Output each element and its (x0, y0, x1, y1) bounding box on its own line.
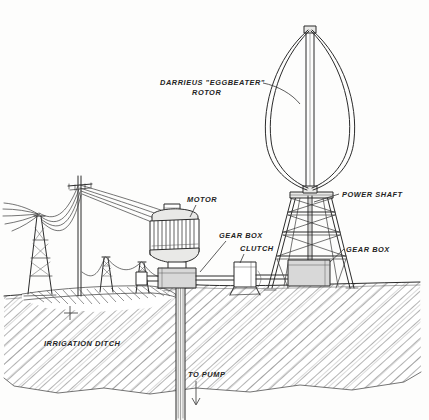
lattice-transmission-tower (3, 203, 56, 296)
label-irrigation-ditch: IRRIGATION DITCH (44, 339, 121, 348)
label-power-shaft: POWER SHAFT (342, 190, 404, 199)
darrieus-turbine-diagram: IRRIGATION DITCH TO PUMP (0, 0, 429, 420)
label-gear-box-tower: GEAR BOX (346, 245, 390, 254)
label-darrieus-rotor-line2: ROTOR (192, 88, 221, 97)
tower-gear-box (288, 260, 330, 286)
label-motor: MOTOR (187, 195, 217, 204)
illustration-canvas: IRRIGATION DITCH TO PUMP (0, 0, 429, 420)
label-clutch: CLUTCH (240, 244, 274, 253)
motor-gear-box (158, 268, 196, 288)
label-to-pump: TO PUMP (188, 370, 225, 379)
label-gear-box-motor: GEAR BOX (219, 231, 263, 240)
label-darrieus-rotor-line1: DARRIEUS "EGGBEATER" (160, 78, 265, 87)
darrieus-rotor (265, 26, 354, 193)
